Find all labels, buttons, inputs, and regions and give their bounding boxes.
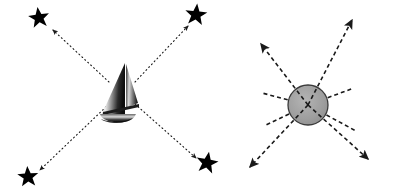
background [0,0,395,195]
diagram-canvas: Radiating arrow diagrams: sailboat with … [0,0,395,195]
diagram-scene [0,0,395,195]
